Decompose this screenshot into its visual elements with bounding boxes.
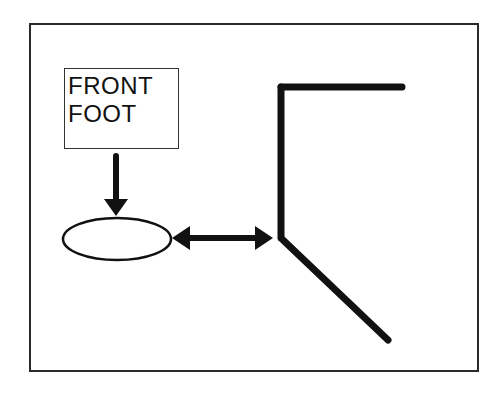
foot-ellipse bbox=[63, 218, 171, 260]
diagram-canvas bbox=[0, 0, 504, 395]
double-arrow-icon bbox=[172, 226, 273, 250]
down-arrow-icon bbox=[104, 156, 128, 216]
body-figure bbox=[281, 87, 402, 340]
